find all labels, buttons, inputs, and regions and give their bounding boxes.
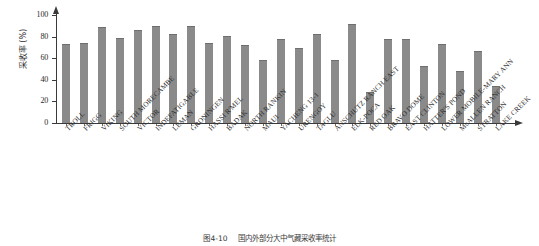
- bar: [62, 44, 70, 123]
- y-tick-label: 80: [26, 33, 48, 41]
- x-tick-mark: [138, 124, 139, 126]
- x-tick-mark: [335, 124, 336, 126]
- figure-caption: 图4-10国内外部分大中气藏采收率统计: [0, 234, 539, 244]
- bar: [277, 39, 285, 123]
- y-axis-arrow-icon: [53, 6, 59, 14]
- x-tick-mark: [102, 124, 103, 126]
- x-tick-mark: [84, 124, 85, 126]
- x-tick-mark: [406, 124, 407, 126]
- x-tick-mark: [496, 124, 497, 126]
- y-tick-label: 40: [26, 76, 48, 84]
- x-tick-mark: [173, 124, 174, 126]
- x-tick-mark: [317, 124, 318, 126]
- x-tick-mark: [442, 124, 443, 126]
- x-tick-mark: [66, 124, 67, 126]
- x-tick-mark: [227, 124, 228, 126]
- y-tick-label: 0: [26, 119, 48, 127]
- x-axis-arrow-icon: [515, 120, 523, 126]
- x-tick-mark: [370, 124, 371, 126]
- x-tick-mark: [191, 124, 192, 126]
- x-tick-mark: [424, 124, 425, 126]
- x-tick-mark: [352, 124, 353, 126]
- y-axis-ticks: 020406080100: [0, 0, 57, 246]
- x-tick-mark: [245, 124, 246, 126]
- figure-container: 采收率 (%) 020406080100 TROLLFRIGGVIKINGSOU…: [0, 0, 539, 246]
- y-tick-label: 20: [26, 97, 48, 105]
- x-tick-mark: [460, 124, 461, 126]
- x-tick-mark: [281, 124, 282, 126]
- x-tick-mark: [299, 124, 300, 126]
- y-tick-label: 60: [26, 54, 48, 62]
- caption-number: 图4-10: [203, 234, 227, 243]
- x-tick-mark: [209, 124, 210, 126]
- bar: [98, 27, 106, 123]
- x-tick-mark: [263, 124, 264, 126]
- x-tick-mark: [156, 124, 157, 126]
- x-tick-mark: [388, 124, 389, 126]
- x-tick-mark: [120, 124, 121, 126]
- caption-text: 国内外部分大中气藏采收率统计: [238, 234, 336, 243]
- x-tick-mark: [478, 124, 479, 126]
- y-tick-label: 100: [26, 11, 48, 19]
